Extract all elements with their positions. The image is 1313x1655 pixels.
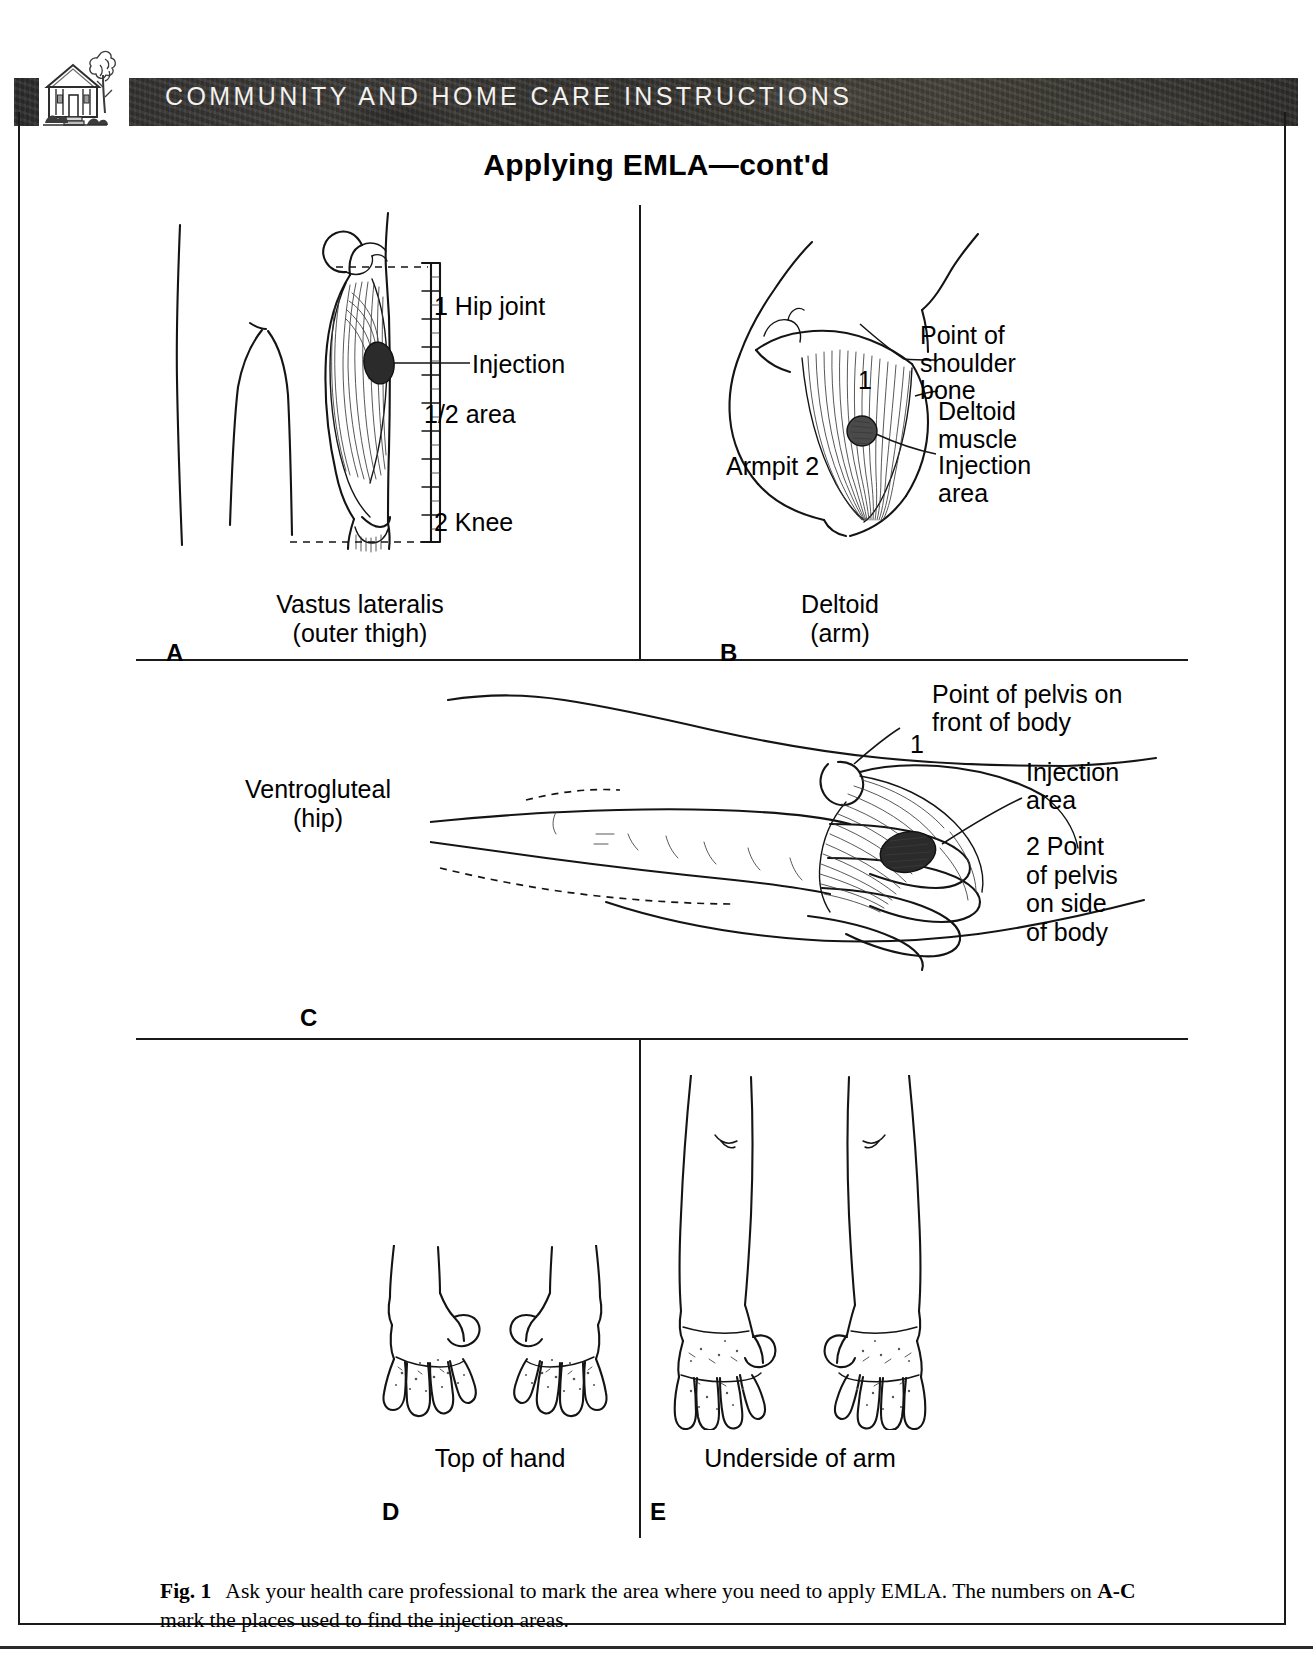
- label-injection-area-b: Injection area: [938, 452, 1031, 507]
- panel-c-caption: Ventrogluteal (hip): [168, 775, 468, 832]
- label-marker-one-b: 1: [858, 366, 872, 395]
- label-hip-joint: 1 Hip joint: [434, 292, 545, 321]
- label-deltoid-muscle-line1: Deltoid: [938, 398, 1017, 426]
- label-point-of-shoulder-bone-line1: Point of: [920, 322, 1016, 350]
- divider-row1-row2: [136, 659, 1188, 661]
- label-armpit: Armpit 2: [726, 452, 819, 481]
- figure-caption-ref: A-C: [1097, 1579, 1135, 1603]
- panel-e-caption: Underside of arm: [670, 1444, 930, 1473]
- panel-a-caption: Vastus lateralis (outer thigh): [180, 590, 540, 647]
- panel-letter-c: C: [300, 1004, 317, 1032]
- panel-a-caption-line2: (outer thigh): [180, 619, 540, 648]
- label-deltoid-muscle-line2: muscle: [938, 426, 1017, 454]
- divider-d-e: [639, 1040, 641, 1538]
- label-half-area-a: 1/2 area: [424, 400, 516, 429]
- label-point-of-shoulder-bone-line2: shoulder: [920, 350, 1016, 378]
- panel-d-illustration: [360, 1245, 630, 1425]
- label-injection-area-b-line2: area: [938, 480, 1031, 508]
- label-deltoid-muscle: Deltoid muscle: [938, 398, 1017, 453]
- figure-caption-text2: mark the places used to find the injecti…: [160, 1608, 569, 1632]
- panel-b-caption: Deltoid (arm): [700, 590, 980, 647]
- panel-c-caption-line1: Ventrogluteal: [168, 775, 468, 804]
- label-point-of-shoulder-bone: Point of shoulder bone: [920, 322, 1016, 405]
- page-bottom-rule: [0, 1646, 1313, 1649]
- label-point-of-pelvis-side-line3: on side: [1026, 889, 1118, 918]
- figure-caption-label: Fig. 1: [160, 1579, 211, 1603]
- label-point-of-pelvis-side-line4: of body: [1026, 918, 1118, 947]
- page-title: Applying EMLA—cont'd: [0, 148, 1313, 182]
- panel-a-illustration: [150, 205, 620, 565]
- panel-b-caption-line1: Deltoid: [700, 590, 980, 619]
- panel-letter-e: E: [650, 1498, 666, 1526]
- label-injection-a: Injection: [472, 350, 565, 379]
- divider-row2-row3: [136, 1038, 1188, 1040]
- page-border-left-stub: [18, 112, 20, 1625]
- panel-b-caption-line2: (arm): [700, 619, 980, 648]
- label-injection-area-c-line2: area: [1026, 786, 1119, 814]
- label-point-of-pelvis-side: 2 Point of pelvis on side of body: [1026, 832, 1118, 946]
- panel-letter-d: D: [382, 1498, 399, 1526]
- panel-e-illustration: [655, 1075, 945, 1430]
- divider-a-b: [639, 205, 641, 660]
- label-point-of-pelvis-side-line2: of pelvis: [1026, 861, 1118, 890]
- label-point-of-pelvis-front-line1: Point of pelvis on: [932, 680, 1122, 708]
- panel-a-caption-line1: Vastus lateralis: [180, 590, 540, 619]
- panel-d-caption: Top of hand: [380, 1444, 620, 1473]
- label-injection-area-c: Injection area: [1026, 758, 1119, 814]
- panel-letter-a: A: [166, 639, 183, 667]
- header-banner-title: COMMUNITY AND HOME CARE INSTRUCTIONS: [165, 82, 852, 111]
- figure-caption: Fig. 1Ask your health care professional …: [160, 1577, 1182, 1634]
- label-marker-one-c: 1: [910, 730, 924, 759]
- label-injection-area-b-line1: Injection: [938, 452, 1031, 480]
- label-point-of-pelvis-front: Point of pelvis on front of body: [932, 680, 1122, 736]
- panel-d-caption-line1: Top of hand: [380, 1444, 620, 1473]
- label-point-of-pelvis-front-line2: front of body: [932, 708, 1122, 736]
- panel-e-caption-line1: Underside of arm: [670, 1444, 930, 1473]
- panel-letter-b: B: [720, 639, 737, 667]
- label-injection-area-c-line1: Injection: [1026, 758, 1119, 786]
- label-point-of-pelvis-side-line1: 2 Point: [1026, 832, 1118, 861]
- label-knee: 2 Knee: [434, 508, 513, 537]
- panel-c-caption-line2: (hip): [168, 804, 468, 833]
- figure-caption-text1: Ask your health care professional to mar…: [225, 1579, 1097, 1603]
